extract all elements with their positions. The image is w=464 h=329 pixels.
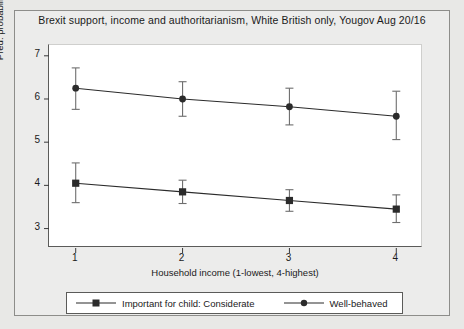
legend-label: Well-behaved — [330, 298, 388, 309]
data-point-marker — [72, 85, 79, 92]
data-point-marker — [179, 188, 186, 195]
x-tick-label: 4 — [387, 252, 403, 263]
legend-key-square-icon — [75, 297, 117, 309]
y-tick-label: 7 — [26, 48, 40, 59]
legend-entry: Well-behaved — [283, 293, 388, 313]
chart-title: Brexit support, income and authoritarian… — [14, 14, 450, 26]
y-tick-label: 6 — [26, 91, 40, 102]
plot-area — [48, 44, 422, 247]
data-point-marker — [72, 180, 79, 187]
series-1 — [72, 68, 401, 140]
y-axis-label: Pred. probability of having voted for Br… — [0, 0, 5, 72]
chart-legend: Important for child: ConsiderateWell-beh… — [66, 292, 403, 314]
legend-key-circle-icon — [283, 297, 325, 309]
plot-svg — [49, 45, 423, 248]
series-line — [76, 183, 397, 209]
legend-entry: Important for child: Considerate — [75, 293, 255, 313]
series-0 — [72, 163, 401, 223]
x-tick-label: 1 — [67, 252, 83, 263]
data-point-marker — [286, 103, 293, 110]
series-line — [76, 88, 397, 116]
y-tick-label: 3 — [26, 221, 40, 232]
y-tick-label: 4 — [26, 177, 40, 188]
data-point-marker — [179, 96, 186, 103]
y-tick-label: 5 — [26, 134, 40, 145]
legend-label: Important for child: Considerate — [122, 298, 255, 309]
data-point-marker — [286, 197, 293, 204]
chart-figure: Brexit support, income and authoritarian… — [0, 0, 464, 329]
x-tick-label: 2 — [174, 252, 190, 263]
data-point-marker — [393, 206, 400, 213]
x-axis-label: Household income (1-lowest, 4-highest) — [48, 267, 422, 278]
data-point-marker — [393, 113, 400, 120]
x-tick-label: 3 — [280, 252, 296, 263]
